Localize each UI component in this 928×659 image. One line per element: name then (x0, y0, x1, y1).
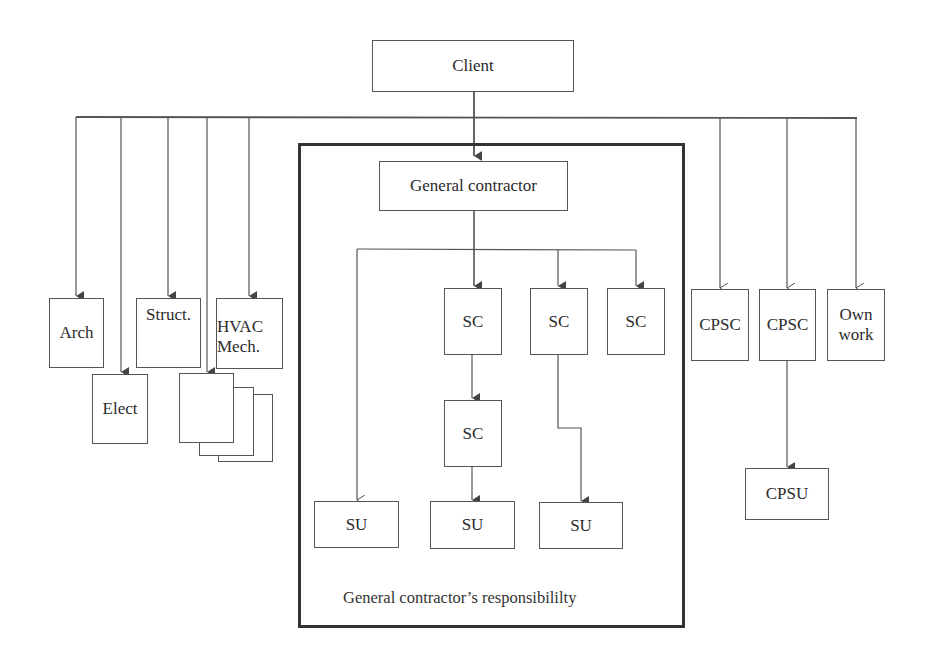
struct-label: Struct. (146, 305, 191, 325)
client-node: Client (372, 40, 574, 92)
cpsu-node: CPSU (745, 468, 829, 520)
own-work-node: Own work (827, 289, 885, 361)
sc-node-1: SC (444, 288, 502, 355)
cpsc-label-1: CPSC (699, 315, 741, 335)
own-label: Own (839, 305, 872, 325)
elect-label: Elect (103, 399, 138, 419)
general-contractor-node: General contractor (379, 161, 568, 211)
sc-label-2: SC (549, 312, 570, 332)
cpsc-node-2: CPSC (759, 289, 816, 361)
su-label-1: SU (346, 515, 368, 535)
su-node-3: SU (539, 502, 623, 549)
sc-node-2: SC (530, 288, 588, 355)
other-consultant-stack-front (179, 373, 234, 443)
su-label-3: SU (570, 516, 592, 536)
work-label: work (839, 325, 874, 345)
cpsu-label: CPSU (766, 484, 809, 504)
hvac-mech-node: HVAC Mech. (216, 298, 283, 369)
mech-label: Mech. (217, 337, 260, 357)
su-node-2: SU (430, 501, 515, 549)
cpsc-label-2: CPSC (767, 315, 809, 335)
sc-label-4: SC (463, 424, 484, 444)
responsibility-caption: General contractor’s responsibililty (343, 588, 576, 608)
su-label-2: SU (462, 515, 484, 535)
gc-responsibility-frame (298, 143, 685, 628)
sc-label-1: SC (463, 312, 484, 332)
hvac-label: HVAC (217, 317, 263, 337)
sc-node-4: SC (444, 400, 502, 467)
su-node-1: SU (314, 501, 399, 548)
sc-node-3: SC (607, 288, 665, 355)
arch-label: Arch (60, 323, 94, 343)
general-contractor-label: General contractor (410, 176, 537, 196)
struct-node: Struct. (136, 298, 201, 368)
arch-node: Arch (49, 298, 104, 368)
elect-node: Elect (92, 374, 148, 444)
sc-label-3: SC (626, 312, 647, 332)
cpsc-node-1: CPSC (691, 289, 749, 361)
client-label: Client (452, 56, 494, 76)
